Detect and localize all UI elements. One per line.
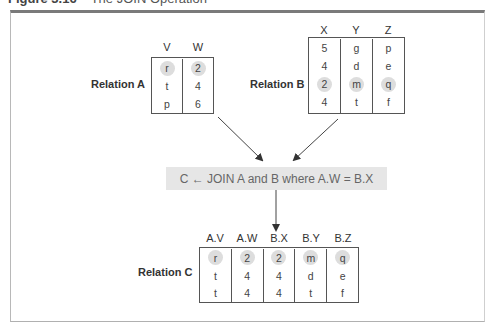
- relation-c-col-bx: 2 4 4: [264, 249, 296, 302]
- relation-c-header-aw: A.W: [231, 232, 263, 244]
- relation-c-col-aw: 2 4 4: [232, 249, 264, 302]
- table-cell: 2: [264, 249, 295, 267]
- table-cell: 4: [232, 267, 263, 285]
- relation-c-col-bz: q e f: [327, 249, 358, 302]
- relation-c-label: Relation C: [138, 266, 192, 278]
- relation-c-header-bx: B.X: [263, 232, 295, 244]
- relation-c-col-by: m d t: [295, 249, 327, 302]
- arrow-b-to-join: [294, 119, 338, 160]
- relation-c-col-av: r t t: [200, 249, 232, 302]
- table-cell: e: [327, 267, 358, 285]
- table-cell: q: [327, 249, 358, 267]
- table-cell: m: [295, 249, 326, 267]
- table-cell: t: [200, 284, 231, 302]
- relation-c-table: r t t 2 4 4 2 4 4 m d t q e f: [199, 247, 359, 303]
- join-operation-text: C ← JOIN A and B where A.W = B.X: [180, 172, 374, 186]
- table-cell: 2: [232, 249, 263, 267]
- relation-c-header-by: B.Y: [295, 232, 327, 244]
- table-cell: 4: [232, 284, 263, 302]
- table-cell: r: [200, 249, 231, 267]
- table-cell: 4: [264, 284, 295, 302]
- table-cell: t: [200, 267, 231, 285]
- arrow-a-to-join: [218, 117, 262, 160]
- table-cell: d: [295, 267, 326, 285]
- relation-c-header-bz: B.Z: [327, 232, 359, 244]
- join-operation-box: C ← JOIN A and B where A.W = B.X: [166, 167, 387, 190]
- relation-c-header-av: A.V: [199, 232, 231, 244]
- table-cell: f: [327, 284, 358, 302]
- table-cell: t: [295, 284, 326, 302]
- table-cell: 4: [264, 267, 295, 285]
